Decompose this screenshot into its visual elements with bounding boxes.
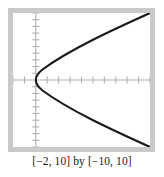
calculator-viewport-frame — [8, 8, 155, 152]
viewport-caption: [−2, 10] by [−10, 10] — [0, 155, 164, 167]
plot-canvas — [13, 13, 150, 147]
plot-area — [13, 13, 150, 147]
graph-figure: [−2, 10] by [−10, 10] — [0, 0, 164, 177]
